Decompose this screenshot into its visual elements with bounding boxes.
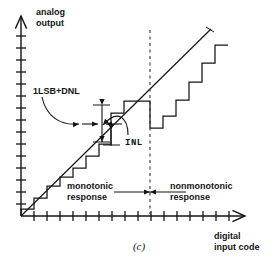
nonmonotonic-response-label: nonmonotonic response bbox=[170, 181, 233, 203]
dac-transfer-characteristic-figure: analog output digital input code 1LSB+DN… bbox=[0, 0, 278, 265]
lsb-dnl-leader-arrow bbox=[42, 97, 79, 124]
inl-annotation-label: INL bbox=[125, 138, 143, 149]
nonmonotonic-response-label-line1: nonmonotonic bbox=[170, 181, 233, 192]
lsb-dnl-annotation-label: 1LSB+DNL bbox=[33, 86, 80, 97]
plot-canvas bbox=[0, 0, 278, 265]
y-axis bbox=[16, 16, 26, 216]
y-axis-label: analog output bbox=[36, 7, 65, 29]
monotonic-response-label: monotonic response bbox=[67, 181, 113, 203]
ideal-line-endpoint-tick bbox=[206, 27, 214, 32]
x-axis bbox=[21, 211, 245, 221]
monotonic-response-label-line2: response bbox=[67, 192, 113, 203]
monotonic-response-label-line1: monotonic bbox=[67, 181, 113, 192]
figure-caption: (c) bbox=[0, 240, 278, 252]
y-axis-label-line1: analog bbox=[36, 7, 65, 18]
y-axis-label-line2: output bbox=[36, 18, 65, 29]
nonmonotonic-response-label-line2: response bbox=[170, 192, 233, 203]
